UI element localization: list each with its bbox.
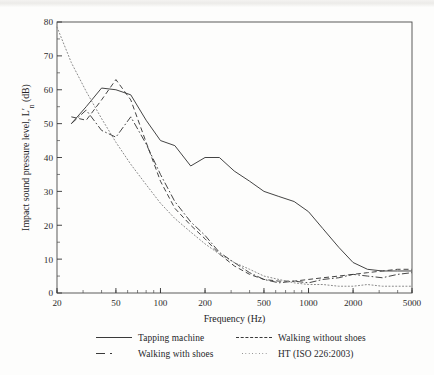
legend-label-ht-iso: HT (ISO 226:2003) <box>278 349 353 359</box>
legend-swatch-solid-icon <box>96 333 132 343</box>
svg-text:200: 200 <box>198 298 212 308</box>
plot-frame <box>57 22 412 293</box>
legend-swatch-dashdot-icon <box>96 349 132 359</box>
svg-text:80: 80 <box>44 17 54 27</box>
x-axis-ticks: 2050100200500100020005000 <box>52 288 421 308</box>
svg-text:0: 0 <box>48 288 53 298</box>
svg-text:60: 60 <box>44 85 54 95</box>
data-series-group <box>57 27 412 286</box>
legend-item-walking-without-shoes: Walking without shoes <box>236 333 366 343</box>
svg-text:100: 100 <box>154 298 168 308</box>
y-axis-ticks: 01020304050607080 <box>44 17 62 298</box>
svg-text:2000: 2000 <box>344 298 363 308</box>
svg-text:1000: 1000 <box>299 298 318 308</box>
legend-label-walking-with-shoes: Walking with shoes <box>138 349 214 359</box>
svg-text:30: 30 <box>44 187 54 197</box>
legend-item-tapping-machine: Tapping machine <box>96 333 236 343</box>
legend-row-2: Walking with shoes HT (ISO 226:2003) <box>96 346 396 362</box>
svg-text:500: 500 <box>257 298 271 308</box>
svg-text:20: 20 <box>52 298 62 308</box>
legend-swatch-dotted-icon <box>236 349 272 359</box>
svg-text:70: 70 <box>44 51 54 61</box>
series-line-walking-without-shoes <box>71 80 412 282</box>
legend-item-walking-with-shoes: Walking with shoes <box>96 349 236 359</box>
legend-swatch-dashed-icon <box>236 333 272 343</box>
svg-text:5000: 5000 <box>403 298 422 308</box>
figure-container: 2050100200500100020005000 01020304050607… <box>0 0 434 375</box>
legend-label-tapping-machine: Tapping machine <box>138 333 204 343</box>
impact-sound-chart: 2050100200500100020005000 01020304050607… <box>0 0 434 375</box>
y-axis-title: Impact sound pressure level, L′n (dB) <box>20 84 36 231</box>
svg-text:50: 50 <box>44 119 54 129</box>
legend-item-ht-iso: HT (ISO 226:2003) <box>236 349 353 359</box>
legend-row-1: Tapping machine Walking without shoes <box>96 330 396 346</box>
legend-label-walking-without-shoes: Walking without shoes <box>278 333 366 343</box>
series-line-ht-iso-226-2003 <box>57 27 412 286</box>
series-line-walking-with-shoes <box>71 110 412 283</box>
chart-legend: Tapping machine Walking without shoes Wa… <box>96 330 396 362</box>
svg-text:10: 10 <box>44 255 54 265</box>
svg-text:20: 20 <box>44 221 54 231</box>
svg-text:40: 40 <box>44 153 54 163</box>
series-line-tapping-machine <box>71 88 412 271</box>
svg-text:50: 50 <box>111 298 121 308</box>
x-axis-title: Frequency (Hz) <box>204 313 266 325</box>
